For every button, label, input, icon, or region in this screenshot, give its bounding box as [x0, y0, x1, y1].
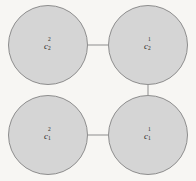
node-label-bottom-left: c21 [44, 130, 52, 141]
node-label-subscript: 2 [148, 46, 151, 52]
node-label-scripts: 21 [48, 130, 52, 139]
node-label-scripts: 11 [148, 130, 152, 139]
node-label-superscript: 1 [148, 126, 151, 132]
node-label-top-left: c22 [44, 40, 52, 51]
graph-svg [0, 0, 196, 181]
node-label-bottom-right: c11 [144, 130, 152, 141]
node-label-top-right: c12 [144, 40, 152, 51]
graph-diagram: c22 c12 c21 c11 [0, 0, 196, 181]
node-label-superscript: 2 [48, 36, 51, 42]
node-label-scripts: 12 [148, 40, 152, 49]
node-label-subscript: 2 [48, 46, 51, 52]
node-label-subscript: 1 [148, 136, 151, 142]
node-label-scripts: 22 [48, 40, 52, 49]
node-label-superscript: 2 [48, 126, 51, 132]
node-label-subscript: 1 [48, 136, 51, 142]
node-label-superscript: 1 [148, 36, 151, 42]
